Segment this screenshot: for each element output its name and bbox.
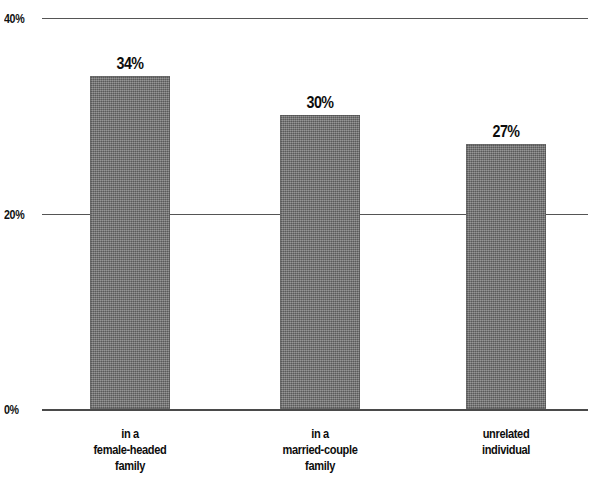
category-label-2-line3: family (261, 458, 380, 474)
axis-baseline-0 (42, 409, 588, 411)
y-tick-label-0: 0% (4, 403, 32, 416)
category-label-2: in a married-couple family (261, 426, 380, 474)
category-label-3-line1: unrelated (447, 426, 566, 442)
category-label-3-line2: individual (447, 442, 566, 458)
category-label-3: unrelated individual (447, 426, 566, 458)
category-label-2-line2: married-couple (261, 442, 380, 458)
bar-value-label-3: 27% (472, 123, 539, 140)
bar-value-label-1: 34% (96, 55, 163, 72)
bar-female-headed-family[interactable] (90, 76, 170, 409)
bar-unrelated-individual[interactable] (466, 144, 546, 409)
category-label-1: in a female-headed family (71, 426, 190, 474)
category-label-1-line1: in a (71, 426, 190, 442)
gridline-40 (42, 18, 588, 19)
bar-value-label-2: 30% (286, 94, 353, 111)
y-tick-label-40: 40% (4, 12, 32, 25)
category-label-1-line2: female-headed (71, 442, 190, 458)
bar-married-couple-family[interactable] (280, 115, 360, 409)
category-label-2-line1: in a (261, 426, 380, 442)
category-label-1-line3: family (71, 458, 190, 474)
bar-chart: 40% 20% 0% 34% in a female-headed family… (0, 0, 590, 492)
y-tick-label-20: 20% (4, 208, 32, 221)
